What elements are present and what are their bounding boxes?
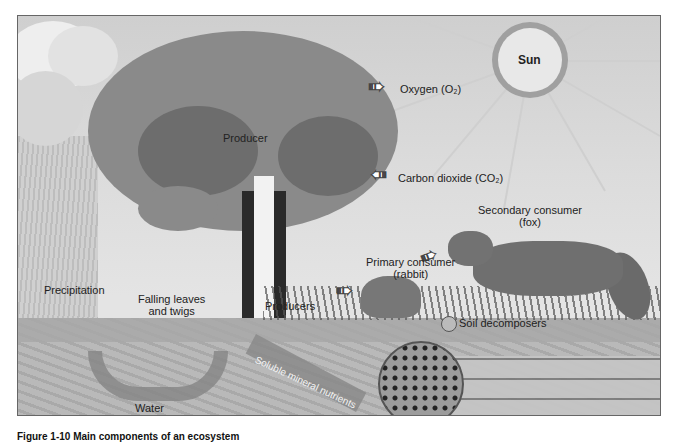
rabbit [361,276,421,318]
grass [263,286,661,320]
precipitation-label: Precipitation [44,284,105,296]
secondary-consumer-line1: Secondary consumer [478,204,582,216]
secondary-consumer-label: Secondary consumer (fox) [478,204,582,228]
producer-label: Producer [223,132,268,144]
fox [473,241,623,296]
carbon-dioxide-label: Carbon dioxide (CO₂) [398,172,503,184]
primary-consumer-line1: Primary consumer [366,256,455,268]
secondary-consumer-line2: (fox) [478,216,582,228]
co2-arrow-icon: ➠ [370,164,387,184]
soil-decomposers-label: Soil decomposers [459,317,546,329]
primary-consumer-label: Primary consumer (rabbit) [366,256,455,280]
producer-to-rabbit-arrow-icon: ➠ [336,280,353,300]
tree-canopy [138,186,218,231]
falling-leaves-label: Falling leaves and twigs [138,293,205,317]
tree-canopy [138,106,258,196]
falling-leaves-line1: Falling leaves [138,293,205,305]
ecosystem-diagram: Sun ➠ ➠ ➠ ➠ Oxygen (O₂) Carbon dioxide (… [17,15,661,416]
topsoil [18,318,660,342]
primary-consumer-line2: (rabbit) [366,268,455,280]
cloud [17,71,83,146]
decomposer-icon [441,316,457,332]
producers-label: Producers [265,300,315,312]
oxygen-label: Oxygen (O₂) [400,83,461,95]
tree-canopy [278,116,378,196]
falling-leaves-line2: and twigs [138,305,205,317]
sun-label: Sun [518,54,541,66]
figure-caption: Figure 1-10 Main components of an ecosys… [17,431,239,442]
oxygen-arrow-icon: ➠ [368,76,385,96]
water-label: Water [135,402,164,414]
